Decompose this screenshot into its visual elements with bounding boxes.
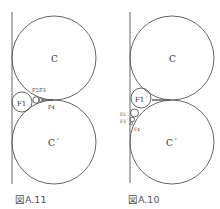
label-c: C [51,54,58,64]
circle-f4 [130,122,133,125]
label-c-prime: C´ [166,138,177,148]
figure-a10: C C´ F1´ F2´ F3´ F4 図A.10 [120,12,214,205]
label-f3: F3 [39,87,46,93]
caption-a11: 図A.11 [15,194,46,205]
circle-f2 [33,97,39,103]
label-f4: F4 [134,127,140,132]
circle-f3 [130,117,134,121]
diagram-canvas: C C´ F1 F2 F3 F4 図A.11 C C´ F1´ F2´ F3´ … [0,0,220,209]
caption-a10: 図A.10 [128,194,159,205]
circle-f2 [131,109,139,117]
label-f3: F3´ [120,119,128,124]
label-c: C [169,54,176,64]
figure-a11: C C´ F1 F2 F3 F4 図A.11 [12,12,96,205]
label-f1: F1´ [135,96,148,104]
label-f4: F4 [48,104,55,110]
label-f1: F1 [17,100,26,108]
label-c-prime: C´ [48,138,59,148]
label-f2: F2´ [120,112,128,117]
label-f2: F2 [32,87,39,93]
circle-f4 [42,99,44,101]
